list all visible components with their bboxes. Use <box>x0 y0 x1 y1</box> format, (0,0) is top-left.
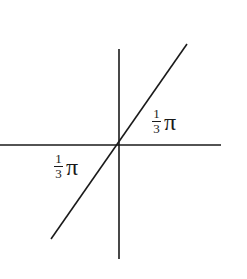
pi-symbol: π <box>66 155 78 179</box>
denominator: 3 <box>153 123 160 135</box>
pi-symbol: π <box>164 110 176 134</box>
diagram-canvas <box>0 0 247 279</box>
denominator: 3 <box>55 168 62 180</box>
numerator: 1 <box>55 153 62 165</box>
fraction: 1 3 <box>54 153 63 180</box>
fraction: 1 3 <box>152 108 161 135</box>
angle-label-upper-right: 1 3 π <box>152 108 176 135</box>
numerator: 1 <box>153 108 160 120</box>
angle-label-lower-left: 1 3 π <box>54 153 78 180</box>
